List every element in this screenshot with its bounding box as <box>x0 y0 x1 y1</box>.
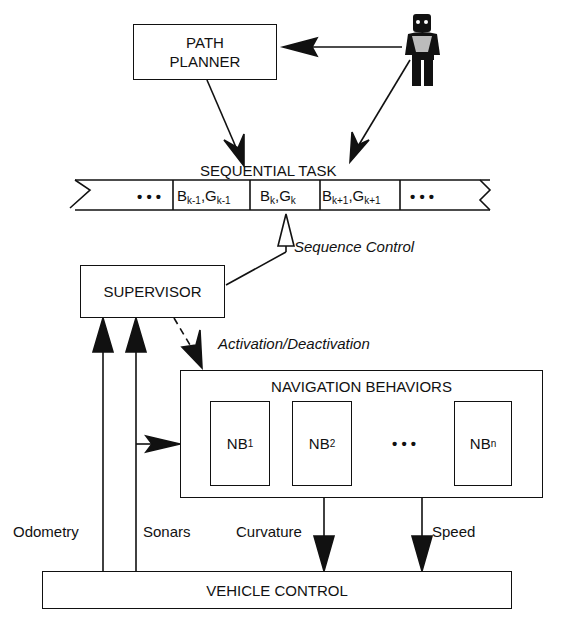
task-ellipsis-right: • • • <box>410 189 434 204</box>
nb-n-box: NBn <box>454 401 512 486</box>
supervisor-box: SUPERVISOR <box>80 265 225 318</box>
supervisor-label: SUPERVISOR <box>103 283 201 300</box>
vehicle-control-label: VEHICLE CONTROL <box>206 582 348 599</box>
task-cell-k-plus-1: Bk+1,Gk+1 <box>322 188 381 206</box>
nb-ellipsis: • • • <box>392 436 416 451</box>
nb-1-box: NB1 <box>210 401 270 486</box>
curvature-label: Curvature <box>236 524 302 539</box>
odometry-label: Odometry <box>13 524 79 539</box>
sonars-label: Sonars <box>143 524 191 539</box>
task-cell-k: Bk,Gk <box>260 188 296 206</box>
path-planner-label-1: PATH <box>186 33 224 52</box>
sequential-task-title: SEQUENTIAL TASK <box>200 163 336 178</box>
arrowhead-icon <box>283 38 317 56</box>
sequence-control-label: Sequence Control <box>294 239 414 254</box>
person-icon <box>405 14 440 86</box>
nb-2-box: NB2 <box>292 401 352 486</box>
path-planner-label-2: PLANNER <box>170 52 241 71</box>
task-ellipsis-left: • • • <box>137 189 161 204</box>
speed-label: Speed <box>432 524 475 539</box>
task-cell-k-minus-1: Bk-1,Gk-1 <box>177 188 231 206</box>
vehicle-control-box: VEHICLE CONTROL <box>42 571 512 609</box>
activation-label: Activation/Deactivation <box>218 336 370 351</box>
path-planner-box: PATH PLANNER <box>133 24 277 80</box>
navigation-behaviors-title: NAVIGATION BEHAVIORS <box>181 379 542 394</box>
